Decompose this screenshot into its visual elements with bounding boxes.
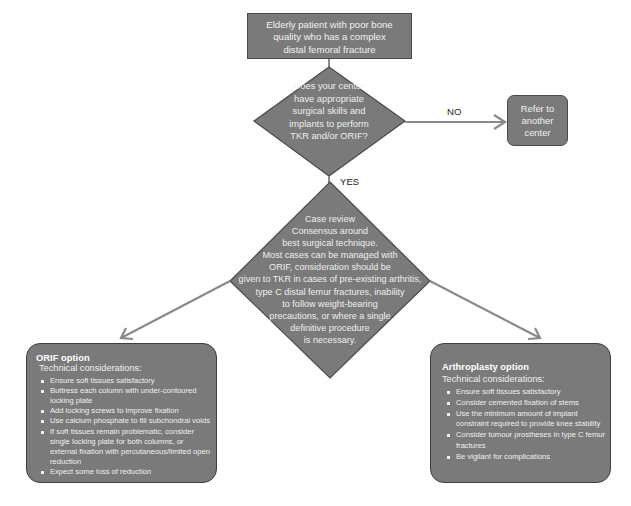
orif-bullet: If soft tissues remain problematic, cons… — [36, 427, 212, 468]
orif-bullet-list: Ensure soft tissues satisfactory Buttres… — [36, 376, 212, 478]
orif-bullet: Add locking screws to improve fixation — [36, 406, 212, 416]
decision2-line: ORIF, consideration should be — [226, 261, 434, 273]
decision2-line: to follow weight-bearing — [226, 298, 434, 310]
arthroplasty-bullet: Consider tumour prostheses in type C fem… — [442, 430, 606, 451]
decision2-line: Most cases can be managed with — [226, 249, 434, 261]
arthroplasty-subtitle: Technical considerations: — [442, 374, 606, 386]
decision1-line: implants to perform — [274, 118, 384, 131]
decision2-line: best surgical technique. — [226, 237, 434, 249]
decision2-text: Case review Consensus around best surgic… — [226, 213, 434, 346]
arthroplasty-bullet-list: Ensure soft tissues satisfactory Conside… — [442, 387, 606, 463]
decision2-line: is necessary. — [226, 334, 434, 346]
start-line: quality who has a complex — [248, 31, 411, 44]
decision1-line: have appropriate — [274, 93, 384, 106]
refer-line: Refer to — [508, 103, 567, 115]
decision2-line: type C distal femur fractures, inability — [226, 286, 434, 298]
decision1-line: surgical skills and — [274, 105, 384, 118]
refer-line: center — [508, 127, 567, 139]
decision2-line: Consensus around — [226, 225, 434, 237]
orif-bullet: Use calcium phosphate to fill subchondra… — [36, 416, 212, 426]
decision2-line: definitive procedure — [226, 322, 434, 334]
refer-line: another — [508, 115, 567, 127]
decision2-line: precautions, or where a single — [226, 310, 434, 322]
arthroplasty-bullet: Be vigilant for complications — [442, 452, 606, 463]
arthroplasty-option-box: Arthroplasty option Technical considerat… — [430, 343, 611, 483]
orif-bullet: Buttress each column with under-contoure… — [36, 386, 212, 406]
decision1-line: Does your center — [274, 80, 384, 93]
decision1-text: Does your center have appropriate surgic… — [274, 80, 384, 143]
orif-subtitle: Technical considerations: — [39, 363, 212, 375]
start-line: distal femoral fracture — [248, 44, 411, 57]
orif-bullet: Ensure soft tissues satisfactory — [36, 376, 212, 386]
arthroplasty-bullet: Use the minimum amount of implant constr… — [442, 409, 606, 430]
no-label: NO — [447, 106, 461, 117]
start-node: Elderly patient with poor bone quality w… — [247, 13, 412, 59]
connector-to-arthroplasty — [430, 281, 540, 338]
decision2-line: given to TKR in cases of pre-existing ar… — [226, 273, 434, 285]
yes-label: YES — [340, 176, 359, 187]
start-line: Elderly patient with poor bone — [248, 19, 411, 32]
arthroplasty-bullet: Consider cemented fixation of stems — [442, 398, 606, 409]
connector-to-orif — [121, 281, 230, 338]
decision1-line: TKR and/or ORIF? — [274, 130, 384, 143]
orif-bullet: Expect some loss of reduction — [36, 467, 212, 477]
orif-option-box: ORIF option Technical considerations: En… — [26, 343, 217, 483]
arthroplasty-title: Arthroplasty option — [442, 361, 606, 372]
arthroplasty-bullet: Ensure soft tissues satisfactory — [442, 387, 606, 398]
decision2-line: Case review — [226, 213, 434, 225]
refer-node: Refer to another center — [507, 95, 568, 146]
orif-title: ORIF option — [36, 352, 212, 363]
